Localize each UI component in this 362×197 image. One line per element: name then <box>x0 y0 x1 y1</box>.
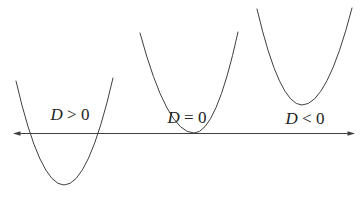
parabola-d-positive <box>16 78 113 185</box>
figure-svg: D > 0 D = 0 D < 0 <box>0 0 362 197</box>
parabola-d-negative <box>257 8 352 105</box>
axis-arrow-left-icon <box>13 131 21 136</box>
case-label-d-zero: D = 0 <box>167 108 207 127</box>
case-label-d-positive: D > 0 <box>50 105 90 124</box>
axis-arrow-right-icon <box>348 131 356 136</box>
discriminant-figure: D > 0 D = 0 D < 0 <box>0 0 362 197</box>
case-label-d-negative: D < 0 <box>285 109 325 128</box>
